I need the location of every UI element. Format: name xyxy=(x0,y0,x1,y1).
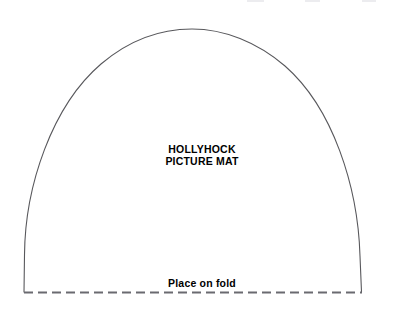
fold-instruction-text: Place on fold xyxy=(163,277,241,289)
pattern-piece-label-line-2: PICTURE MAT xyxy=(0,155,404,167)
pattern-piece-label: HOLLYHOCK PICTURE MAT xyxy=(0,143,404,168)
pattern-piece-label-line-1: HOLLYHOCK xyxy=(0,143,404,155)
fold-instruction-label: Place on fold xyxy=(0,277,404,289)
pattern-canvas: HOLLYHOCK PICTURE MAT Place on fold xyxy=(0,0,404,322)
